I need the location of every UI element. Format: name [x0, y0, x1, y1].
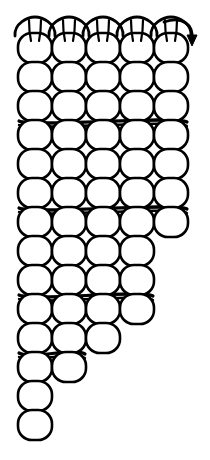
- stitch-loop: [86, 323, 120, 353]
- stitch-loop: [86, 149, 120, 179]
- stitch-loop: [154, 33, 188, 63]
- figure-caption: [0, 450, 210, 460]
- stitch-loop: [18, 410, 52, 440]
- stitch-loop: [18, 62, 52, 92]
- stitch-loop: [52, 62, 86, 92]
- stitch-loop: [18, 352, 52, 382]
- stitch-loop: [52, 91, 86, 121]
- stitch-loop: [120, 236, 154, 266]
- stitch-loop: [18, 33, 52, 63]
- stitch-loop: [86, 91, 120, 121]
- stitch-loop: [52, 352, 86, 382]
- stitch-loop: [154, 62, 188, 92]
- stitch-loop: [120, 149, 154, 179]
- stitch-loop: [120, 178, 154, 208]
- stitch-loop: [86, 294, 120, 324]
- stitch-loop: [18, 294, 52, 324]
- stitch-loop: [120, 294, 154, 324]
- stitch-loop: [154, 207, 188, 237]
- stitch-loop: [18, 381, 52, 411]
- stitch-loop: [52, 294, 86, 324]
- knitting-stitch-diagram: [0, 0, 210, 460]
- stitch-loop: [154, 178, 188, 208]
- stitch-loop: [120, 265, 154, 295]
- stitch-loop: [120, 120, 154, 150]
- stitch-loop: [52, 178, 86, 208]
- stitch-loop: [18, 236, 52, 266]
- stitch-loop: [52, 149, 86, 179]
- stitch-loop: [154, 120, 188, 150]
- stitch-loop: [52, 207, 86, 237]
- stitch-loop: [18, 265, 52, 295]
- stitch-loop: [86, 33, 120, 63]
- stitch-loop: [154, 91, 188, 121]
- stitch-loop: [120, 62, 154, 92]
- stitch-loop: [18, 149, 52, 179]
- stitch-loop: [86, 178, 120, 208]
- stitch-loop: [86, 265, 120, 295]
- stitch-loop: [52, 236, 86, 266]
- stitch-loop: [120, 207, 154, 237]
- stitch-loop: [86, 62, 120, 92]
- stitch-loop: [120, 33, 154, 63]
- stitch-loop: [86, 120, 120, 150]
- stitch-loop: [154, 149, 188, 179]
- stitch-loop: [18, 323, 52, 353]
- stitch-loop: [86, 207, 120, 237]
- stitch-diagram-figure: [0, 0, 210, 460]
- stitch-loop: [18, 207, 52, 237]
- stitch-loop: [18, 91, 52, 121]
- stitch-loop: [52, 265, 86, 295]
- stitch-loop: [52, 120, 86, 150]
- stitch-loop: [52, 33, 86, 63]
- stitch-loop: [52, 323, 86, 353]
- stitch-loop: [18, 178, 52, 208]
- stitch-loop: [86, 236, 120, 266]
- stitch-loop: [18, 120, 52, 150]
- stitch-loop: [120, 91, 154, 121]
